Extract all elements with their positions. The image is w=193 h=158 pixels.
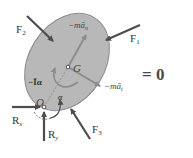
label-g: G	[73, 62, 81, 74]
label-f1: F1	[130, 32, 140, 46]
label-inertial-normal: −mān	[68, 20, 88, 31]
equation-rhs: = 0	[142, 65, 164, 84]
label-f2: F2	[16, 23, 26, 37]
label-o: O	[36, 96, 44, 108]
label-inertial-couple: −Īα	[28, 77, 42, 87]
label-ry: Ry	[48, 128, 59, 142]
center-of-mass-point	[66, 65, 70, 69]
label-f3: F3	[92, 123, 102, 137]
label-inertial-tangential: −māt	[104, 81, 123, 92]
label-rx: Rx	[12, 114, 23, 128]
force-f3-arrow	[71, 109, 90, 139]
kinetic-diagram: F2 F1 F3 Rx Ry G O −mān −māt −Īα α = 0	[0, 0, 193, 158]
label-alpha: α	[58, 93, 63, 102]
